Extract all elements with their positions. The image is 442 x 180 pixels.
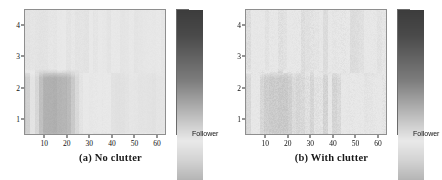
x-tick-mark bbox=[332, 135, 333, 138]
x-tick-mark bbox=[355, 135, 356, 138]
y-tick-mark bbox=[21, 87, 24, 88]
colorbar-a: Follower bbox=[176, 9, 189, 135]
y-tick-mark bbox=[242, 24, 245, 25]
x-tick-mark bbox=[44, 135, 45, 138]
y-tick-label: 1 bbox=[16, 115, 20, 124]
y-tick-label: 2 bbox=[16, 83, 20, 92]
x-tick-mark bbox=[156, 135, 157, 138]
x-tick-mark bbox=[66, 135, 67, 138]
x-tick-mark bbox=[89, 135, 90, 138]
y-tick-mark bbox=[242, 56, 245, 57]
x-tick-label: 20 bbox=[63, 139, 71, 148]
x-tick-label: 60 bbox=[153, 139, 161, 148]
panel-caption-b: (b) With clutter bbox=[221, 152, 442, 163]
x-tick-label: 10 bbox=[262, 139, 270, 148]
x-tick-label: 30 bbox=[86, 139, 94, 148]
axes-frame-b bbox=[245, 9, 387, 135]
heatmap-canvas-b bbox=[246, 10, 387, 135]
x-tick-mark bbox=[287, 135, 288, 138]
figure-two-panel-heatmaps: 1234102030405060 Follower (a) No clutter… bbox=[0, 0, 442, 180]
y-tick-label: 3 bbox=[237, 52, 241, 61]
x-tick-mark bbox=[134, 135, 135, 138]
y-tick-mark bbox=[242, 119, 245, 120]
heatmap-plot-a: 1234102030405060 bbox=[24, 9, 166, 135]
x-tick-label: 30 bbox=[307, 139, 315, 148]
colorbar-label-a: Follower bbox=[192, 130, 218, 137]
y-tick-label: 2 bbox=[237, 83, 241, 92]
y-tick-mark bbox=[242, 87, 245, 88]
colorbar-b: Follower bbox=[397, 9, 410, 135]
heatmap-canvas-a bbox=[25, 10, 166, 135]
y-tick-mark bbox=[21, 24, 24, 25]
y-tick-label: 1 bbox=[237, 115, 241, 124]
x-tick-label: 20 bbox=[284, 139, 292, 148]
x-tick-label: 60 bbox=[374, 139, 382, 148]
y-tick-label: 3 bbox=[16, 52, 20, 61]
y-tick-mark bbox=[21, 119, 24, 120]
colorbar-gradient-b bbox=[397, 9, 410, 135]
x-tick-label: 40 bbox=[329, 139, 337, 148]
y-tick-label: 4 bbox=[237, 20, 241, 29]
x-tick-label: 10 bbox=[41, 139, 49, 148]
panel-with-clutter: 1234102030405060 Follower (b) With clutt… bbox=[221, 0, 442, 180]
x-tick-label: 50 bbox=[131, 139, 139, 148]
y-tick-mark bbox=[21, 56, 24, 57]
colorbar-label-b: Follower bbox=[413, 130, 439, 137]
x-tick-mark bbox=[111, 135, 112, 138]
x-tick-mark bbox=[377, 135, 378, 138]
colorbar-gradient-a bbox=[176, 9, 189, 135]
x-tick-label: 40 bbox=[108, 139, 116, 148]
x-tick-label: 50 bbox=[352, 139, 360, 148]
heatmap-plot-b: 1234102030405060 bbox=[245, 9, 387, 135]
y-tick-label: 4 bbox=[16, 20, 20, 29]
panel-no-clutter: 1234102030405060 Follower (a) No clutter bbox=[0, 0, 221, 180]
panel-caption-a: (a) No clutter bbox=[0, 152, 221, 163]
x-tick-mark bbox=[310, 135, 311, 138]
axes-frame-a bbox=[24, 9, 166, 135]
x-tick-mark bbox=[265, 135, 266, 138]
